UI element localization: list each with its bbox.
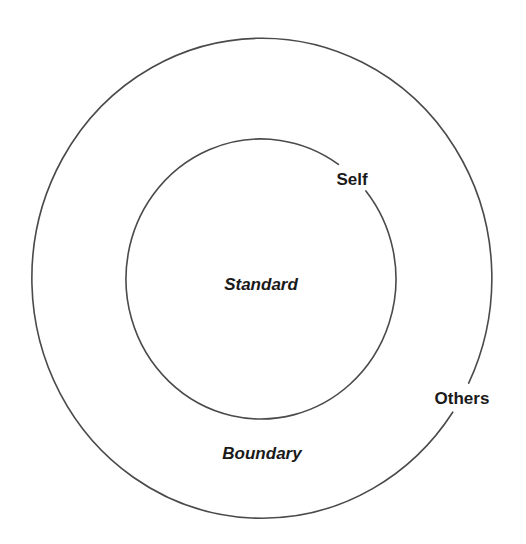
self-label: Self	[336, 170, 367, 190]
boundary-label: Boundary	[222, 444, 301, 464]
standard-label: Standard	[224, 275, 298, 295]
others-label: Others	[435, 389, 490, 409]
